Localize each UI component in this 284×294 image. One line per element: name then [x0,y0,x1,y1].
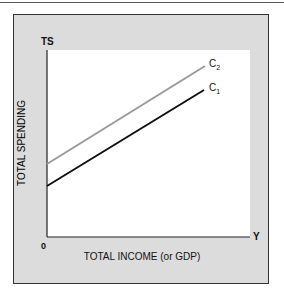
x-axis-end-label: Y [253,231,260,242]
legend-c2-sub: 2 [216,64,220,71]
legend-c1: C1 [209,82,220,95]
origin-label: 0 [41,241,46,251]
y-axis-end-label: TS [41,36,54,47]
series-c1-line [47,90,204,186]
y-axis-title: TOTAL SPENDING [16,100,27,186]
series-c2-line [47,66,205,164]
legend-c2: C2 [209,58,220,71]
legend-c1-sub: 1 [216,88,220,95]
x-axis-title: TOTAL INCOME (or GDP) [0,251,284,262]
